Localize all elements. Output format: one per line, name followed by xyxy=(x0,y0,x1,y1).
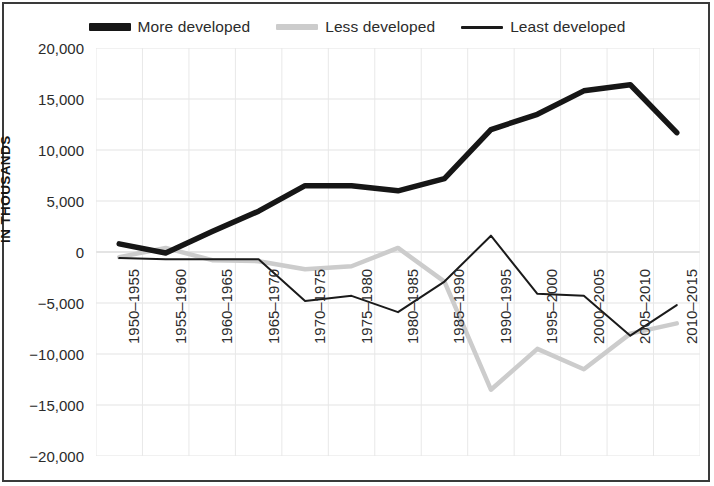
y-axis-tick-label: 10,000 xyxy=(38,142,84,159)
y-axis-tick-label: 0 xyxy=(76,244,84,261)
x-axis-tick-label: 1965–1970 xyxy=(265,269,282,344)
x-axis-tick-label: 2005–2010 xyxy=(636,269,653,344)
chart-container: More developed Less developed Least deve… xyxy=(0,0,714,486)
x-axis-tick-label: 1990–1995 xyxy=(497,269,514,344)
x-axis-tick-label: 2000–2005 xyxy=(590,269,607,344)
legend-line-swatch-icon xyxy=(89,23,131,31)
y-axis-tick-label: 20,000 xyxy=(38,40,84,57)
y-axis-tick-label: 15,000 xyxy=(38,91,84,108)
x-axis-tick-label: 1970–1975 xyxy=(311,269,328,344)
legend-item-less-developed: Less developed xyxy=(276,18,435,36)
x-axis-tick-label: 1950–1955 xyxy=(125,269,142,344)
legend-label: More developed xyxy=(138,18,251,36)
plot-area xyxy=(96,48,700,456)
y-axis-tick-label: −15,000 xyxy=(29,397,84,414)
x-axis-tick-label: 1980–1985 xyxy=(404,269,421,344)
legend-item-more-developed: More developed xyxy=(89,18,251,36)
y-axis-tick-label: −5,000 xyxy=(38,295,84,312)
legend-label: Least developed xyxy=(510,18,625,36)
x-axis-tick-label: 1995–2000 xyxy=(543,269,560,344)
x-axis-tick-label: 1985–1990 xyxy=(450,269,467,344)
legend-line-swatch-icon xyxy=(276,24,318,30)
y-axis-tick-labels: 20,00015,00010,0005,0000−5,000−10,000−15… xyxy=(0,0,92,486)
x-axis-tick-label: 1975–1980 xyxy=(358,269,375,344)
y-axis-tick-label: 5,000 xyxy=(46,193,84,210)
series-line-more-developed xyxy=(119,85,677,253)
legend-item-least-developed: Least developed xyxy=(461,18,625,36)
x-axis-tick-label: 2010–2015 xyxy=(683,269,700,344)
y-axis-tick-label: −20,000 xyxy=(29,448,84,465)
chart-legend: More developed Less developed Least deve… xyxy=(0,14,714,40)
x-axis-tick-label: 1960–1965 xyxy=(218,269,235,344)
y-axis-tick-label: −10,000 xyxy=(29,346,84,363)
legend-line-swatch-icon xyxy=(461,26,503,29)
legend-label: Less developed xyxy=(325,18,435,36)
plot-svg xyxy=(96,48,700,456)
x-axis-tick-label: 1955–1960 xyxy=(172,269,189,344)
